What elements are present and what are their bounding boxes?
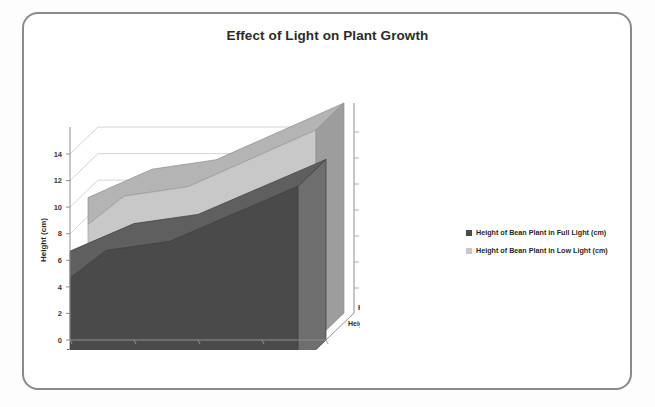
y-tick-label: 0 — [58, 336, 62, 345]
y-tick-label: 6 — [58, 256, 62, 265]
legend-item-label: Height of Bean Plant in Low Light (cm) — [476, 246, 608, 255]
depth-axis-ticks — [354, 132, 359, 288]
chart-legend: Height of Bean Plant in Full Light (cm) … — [466, 228, 636, 264]
legend-swatch-icon — [466, 248, 472, 254]
y-tick-label: 8 — [58, 229, 62, 238]
y-tick-label: 10 — [54, 203, 62, 212]
y-tick-label: 14 — [54, 150, 63, 159]
legend-swatch-icon — [466, 230, 472, 236]
y-axis-tick-labels: 0 2 4 6 8 10 12 14 — [54, 150, 63, 345]
legend-item-full-light[interactable]: Height of Bean Plant in Full Light (cm) — [466, 228, 636, 237]
y-tick-label: 2 — [58, 309, 62, 318]
chart-title: Effect of Light on Plant Growth — [0, 28, 655, 43]
y-tick-label: 4 — [58, 283, 63, 292]
y-axis-title: Height (cm) — [40, 218, 48, 262]
y-axis-ticks — [66, 154, 70, 340]
legend-item-low-light[interactable]: Height of Bean Plant in Low Light (cm) — [466, 246, 636, 255]
y-tick-label: 12 — [54, 176, 62, 185]
x-tick-label: 1 — [66, 347, 70, 350]
legend-item-label: Height of Bean Plant in Full Light (cm) — [476, 228, 606, 237]
inline-annotation-low-light: Height of Bean Plant in Low Light (cm) — [358, 304, 360, 312]
inline-annotation-full-light: Height of Bean Plant in Full Light (cm) — [348, 320, 360, 328]
chart-screenshot: Effect of Light on Plant Growth — [0, 0, 655, 407]
plot-area: 0 2 4 6 8 10 12 14 1 2 3 4 5 Day Height … — [40, 100, 360, 350]
